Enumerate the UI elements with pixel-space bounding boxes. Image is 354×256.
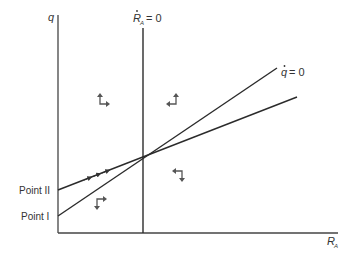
arrow-down-right-icon [94, 196, 107, 210]
svg-text:= 0: = 0 [146, 12, 162, 24]
phase-diagram: q R A = 0 q = 0 Point II Point I R A [0, 0, 354, 256]
arrow-up-left-icon [166, 93, 179, 107]
y-axis-label: q [48, 11, 55, 23]
q-dot-zero-label: q = 0 [281, 65, 305, 78]
q-dot-zero-locus [58, 68, 277, 216]
svg-text:q: q [281, 66, 288, 78]
svg-text:= 0: = 0 [289, 66, 305, 78]
r-dot-zero-label: R A = 0 [133, 10, 162, 26]
svg-text:A: A [139, 20, 144, 26]
saddle-path-arrows [84, 171, 108, 180]
arrow-down-left-icon [172, 168, 185, 182]
point-ii-label: Point II [19, 185, 50, 196]
point-i-label: Point I [21, 211, 49, 222]
x-axis-label: R A [327, 235, 338, 249]
svg-text:A: A [333, 243, 338, 249]
arrow-up-right-icon [97, 93, 110, 107]
